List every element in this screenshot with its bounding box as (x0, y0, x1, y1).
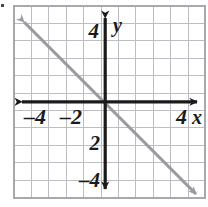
tick-label-x-neg2: –2 (59, 104, 82, 129)
tick-label-x-neg4: –4 (23, 104, 46, 129)
tick-label-y-4: 4 (88, 19, 100, 43)
tick-label-y-neg4: –4 (78, 168, 100, 192)
tick-label-y-neg2: 2 (89, 131, 101, 155)
x-axis-label: x (191, 106, 202, 128)
y-axis-label: y (111, 14, 122, 37)
corner-marker-dot (1, 4, 4, 7)
coordinate-graph-figure: 4 y –4 –2 4 x 2 –4 (0, 0, 208, 207)
graph-svg: 4 y –4 –2 4 x 2 –4 (0, 0, 208, 207)
tick-label-x-4: 4 (175, 104, 187, 129)
